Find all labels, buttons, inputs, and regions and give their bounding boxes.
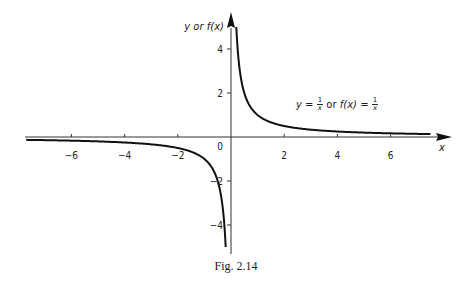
y-axis-label: y or f(x) bbox=[183, 21, 224, 32]
eq-equals-2: = bbox=[357, 99, 372, 110]
tick-labels: −6−4−2246−4−2240y or f(x)x bbox=[65, 21, 445, 231]
y-axis-arrow-icon bbox=[227, 12, 235, 28]
x-axis-arrow-icon bbox=[436, 133, 452, 141]
curve-branch-positive bbox=[236, 27, 430, 134]
y-tick-label: −2 bbox=[210, 176, 223, 187]
y-tick-label: 2 bbox=[217, 88, 223, 99]
x-tick-label: 2 bbox=[281, 150, 287, 161]
figure-caption: Fig. 2.14 bbox=[0, 259, 472, 274]
y-tick-label: 4 bbox=[217, 44, 223, 55]
frac-den-2: x bbox=[372, 105, 378, 112]
x-axis-label: x bbox=[438, 142, 445, 153]
x-tick-label: −2 bbox=[171, 150, 184, 161]
origin-label: 0 bbox=[217, 141, 223, 152]
x-tick-label: −6 bbox=[65, 150, 79, 161]
x-tick-label: 6 bbox=[388, 150, 394, 161]
reciprocal-function-chart: −6−4−2246−4−2240y or f(x)x bbox=[0, 0, 472, 295]
equation-annotation: y = 1x or f(x) = 1x bbox=[296, 97, 378, 112]
x-tick-label: 4 bbox=[335, 150, 341, 161]
x-tick-label: −4 bbox=[118, 150, 132, 161]
eq-or: or bbox=[323, 99, 340, 110]
y-tick-label: −4 bbox=[210, 220, 224, 231]
fraction-2: 1x bbox=[372, 97, 378, 112]
eq-f: f(x) bbox=[340, 99, 357, 110]
eq-equals: = bbox=[302, 99, 317, 110]
